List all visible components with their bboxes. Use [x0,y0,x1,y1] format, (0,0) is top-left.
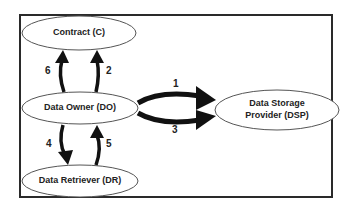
data-retriever-label: Data Retriever (DR) [22,175,138,186]
step-label-5: 5 [106,138,112,149]
dsp-label-line2: Provider (DSP) [215,110,339,121]
step-label-6: 6 [45,65,51,76]
arrow-2-icon [90,50,104,92]
step-label-1: 1 [173,78,179,89]
arrow-6-icon [55,50,69,92]
arrow-5-icon [90,125,104,165]
dsp-label-line1: Data Storage [215,98,339,109]
step-label-4: 4 [46,138,52,149]
arrow-1-icon [138,86,216,110]
step-label-3: 3 [172,124,178,135]
step-label-2: 2 [106,65,112,76]
data-owner-label: Data Owner (DO) [22,102,138,113]
contract-label: Contract (C) [22,27,136,38]
arrow-4-icon [58,125,73,165]
